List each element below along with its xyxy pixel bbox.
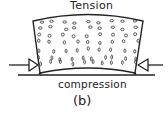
figure-label: (b) [73, 93, 91, 108]
right-arrowhead-icon [138, 59, 148, 71]
right-force-arrow [138, 59, 163, 71]
left-pivot [39, 72, 41, 74]
tension-label: Tension [70, 0, 113, 12]
right-pivot [134, 72, 136, 74]
left-force-arrow [9, 59, 38, 71]
left-arrowhead-icon [29, 59, 38, 71]
compression-label: compression [58, 78, 127, 90]
